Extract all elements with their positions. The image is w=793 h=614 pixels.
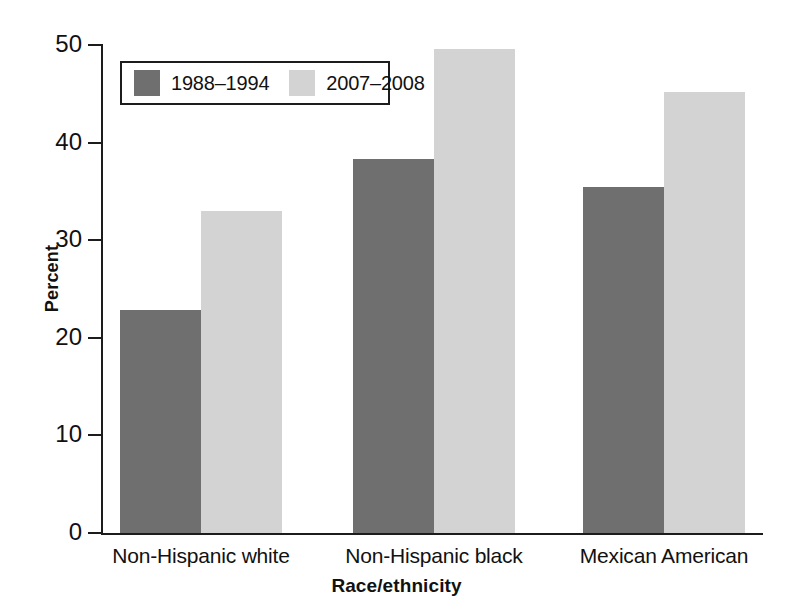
legend-label-series-1: 1988–1994 <box>171 73 269 93</box>
bar <box>201 211 282 533</box>
dark-gray-swatch-icon <box>134 70 160 96</box>
x-axis-category-label: Mexican American <box>514 545 793 566</box>
legend-label-series-2: 2007–2008 <box>326 73 424 93</box>
bar-chart-figure: 01020304050 Percent Non-Hispanic whiteNo… <box>0 0 793 614</box>
bar <box>120 310 201 533</box>
bar <box>434 49 515 533</box>
legend: 1988–1994 2007–2008 <box>120 61 390 105</box>
bar <box>353 159 434 533</box>
legend-entry-series-2: 2007–2008 <box>289 70 424 96</box>
bar <box>664 92 745 533</box>
light-gray-swatch-icon <box>289 70 315 96</box>
bar <box>583 187 664 533</box>
legend-entry-series-1: 1988–1994 <box>134 70 269 96</box>
x-axis-line <box>101 533 763 535</box>
x-axis-title: Race/ethnicity <box>0 575 793 597</box>
